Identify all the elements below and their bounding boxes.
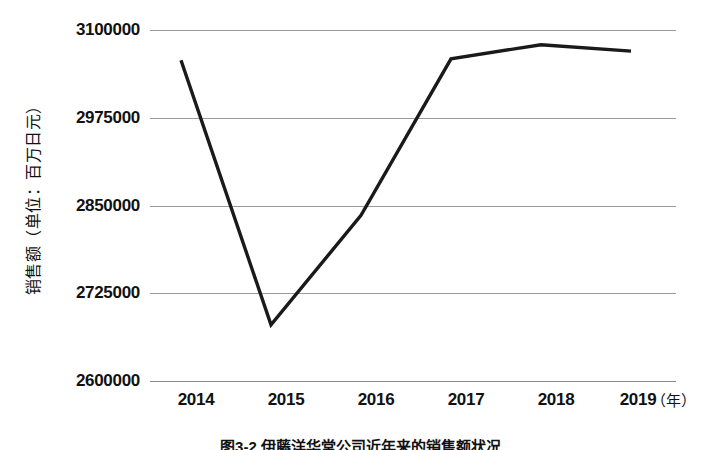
axis-line-bottom [150,381,676,382]
y-tick-label-2850000: 2850000 [0,197,140,215]
figure-container: 销售额（单位：百万日元） 3100000 2975000 2850000 272… [0,0,721,450]
y-tick-label-2600000: 2600000 [0,372,140,390]
plot-area [150,30,676,381]
figure-caption: 图3-2 伊藤洋华堂公司近年来的销售额状况 [0,437,721,450]
y-tick-label-2725000: 2725000 [0,284,140,302]
y-tick-label-2975000: 2975000 [0,109,140,127]
x-axis-unit-label: （年） [651,391,696,411]
series-line-sales [150,30,676,381]
y-tick-label-3100000: 3100000 [0,21,140,39]
